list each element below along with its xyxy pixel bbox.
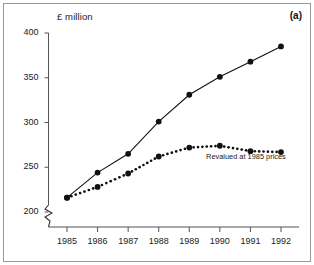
data-point-marker <box>64 195 70 201</box>
data-point-marker <box>217 74 223 80</box>
series-dot-dotted <box>175 150 178 153</box>
series-dot-dotted <box>134 168 137 171</box>
series-dot-dotted <box>150 159 153 162</box>
series-dot-dotted <box>162 154 165 157</box>
series-dot-dotted <box>214 145 217 148</box>
series-dot-dotted <box>210 145 213 148</box>
x-axis-tick-label: 1992 <box>264 236 298 246</box>
series-dot-dotted <box>74 193 77 196</box>
x-axis-tick-label: 1991 <box>233 236 267 246</box>
series-dot-dotted <box>79 192 82 195</box>
series-dot-dotted <box>87 189 90 192</box>
x-axis-tick-label: 1990 <box>203 236 237 246</box>
data-point-marker <box>125 151 131 157</box>
x-axis-ticks <box>67 227 281 232</box>
x-axis-tick-label: 1986 <box>81 236 115 246</box>
series-dot-dotted <box>142 164 145 167</box>
series-dot-dotted <box>118 176 121 179</box>
series-dot-dotted <box>114 178 117 181</box>
series-dot-dotted <box>179 149 182 152</box>
data-point-marker <box>278 44 284 50</box>
series-dot-dotted <box>70 195 73 198</box>
series-dot-dotted <box>232 147 235 150</box>
data-point-marker <box>217 143 223 149</box>
plot-canvas <box>0 0 314 265</box>
series-dot-dotted <box>205 145 208 148</box>
data-point-marker <box>125 171 131 177</box>
series-dot-dotted <box>201 145 204 148</box>
x-axis-tick-label: 1989 <box>172 236 206 246</box>
data-point-marker <box>95 170 101 176</box>
y-axis-tick-label: 300 <box>11 117 39 127</box>
data-point-marker <box>186 145 192 151</box>
series-dot-dotted <box>109 180 112 183</box>
series-label-revalued: Revalued at 1985 prices <box>206 152 286 161</box>
series-dot-dotted <box>236 147 239 150</box>
data-point-marker <box>95 184 101 190</box>
y-axis-ticks <box>45 33 49 212</box>
axes <box>45 33 300 232</box>
data-point-marker <box>248 59 254 65</box>
series-dot-dotted <box>101 184 104 187</box>
series-dot-dotted <box>83 190 86 193</box>
series-dot-dotted <box>131 170 134 173</box>
series-dot-dotted <box>223 145 226 148</box>
series-dot-dotted <box>105 182 108 185</box>
series-dot-dotted <box>154 157 157 160</box>
x-axis-tick-label: 1987 <box>111 236 145 246</box>
x-axis-tick-label: 1985 <box>50 236 84 246</box>
series-dot-dotted <box>146 162 149 165</box>
x-axis-tick-label: 1988 <box>142 236 176 246</box>
chart-figure: £ million (a) 200250300350400 1985198619… <box>0 0 314 265</box>
data-point-marker <box>156 154 162 160</box>
series-dot-dotted <box>166 153 169 156</box>
data-point-marker <box>156 119 162 125</box>
y-axis-tick-label: 250 <box>11 161 39 171</box>
data-series-group <box>64 44 284 201</box>
series-dot-dotted <box>170 151 173 154</box>
series-dot-dotted <box>227 146 230 149</box>
series-dot-dotted <box>138 166 141 169</box>
series-dot-dotted <box>92 187 95 190</box>
data-point-marker <box>186 92 192 98</box>
y-axis-tick-label: 350 <box>11 72 39 82</box>
y-axis-break-icon <box>45 205 52 227</box>
series-dot-dotted <box>197 146 200 149</box>
series-dot-dotted <box>192 146 195 149</box>
y-axis-tick-label: 200 <box>11 206 39 216</box>
series-dot-dotted <box>122 174 125 177</box>
series-dot-dotted <box>184 147 187 150</box>
y-axis-tick-label: 400 <box>11 27 39 37</box>
